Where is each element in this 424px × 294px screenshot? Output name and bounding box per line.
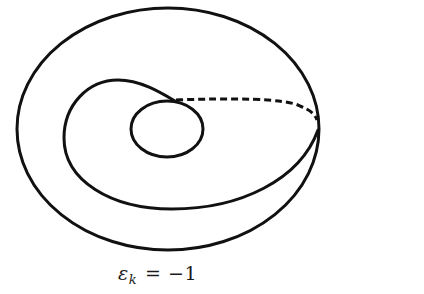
caption: εk= −1 — [118, 262, 218, 287]
diagram-canvas — [0, 0, 424, 294]
outer-ellipse — [17, 8, 319, 250]
diagram-figure: εk= −1 — [0, 0, 424, 294]
dashed-arc — [176, 99, 317, 120]
caption-relation: = −1 — [145, 262, 197, 284]
caption-subscript: k — [129, 272, 137, 287]
caption-symbol: ε — [118, 262, 129, 284]
inner-circle — [131, 101, 203, 157]
